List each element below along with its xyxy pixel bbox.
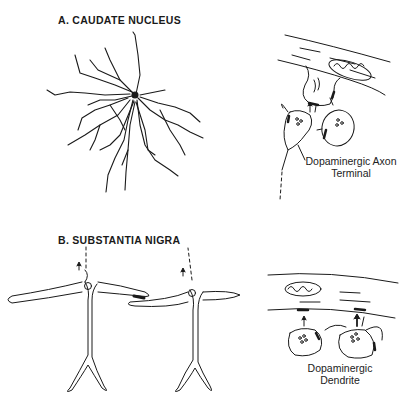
panel-b-caption-line2: Dendrite <box>300 374 380 386</box>
panel-a-caption-line2: Terminal <box>296 167 406 179</box>
figure-drawing <box>0 0 413 405</box>
caudate-neuron-tracing <box>47 32 203 192</box>
panel-a-caption-line1: Dopaminergic Axon <box>296 155 406 167</box>
panel-a-caption: Dopaminergic Axon Terminal <box>296 155 406 179</box>
panel-b-caption-line1: Dopaminergic <box>300 362 380 374</box>
panel-b-caption: Dopaminergic Dendrite <box>300 362 380 386</box>
nigral-dendrite-schematic <box>268 274 398 359</box>
nigral-neurons <box>8 245 240 392</box>
